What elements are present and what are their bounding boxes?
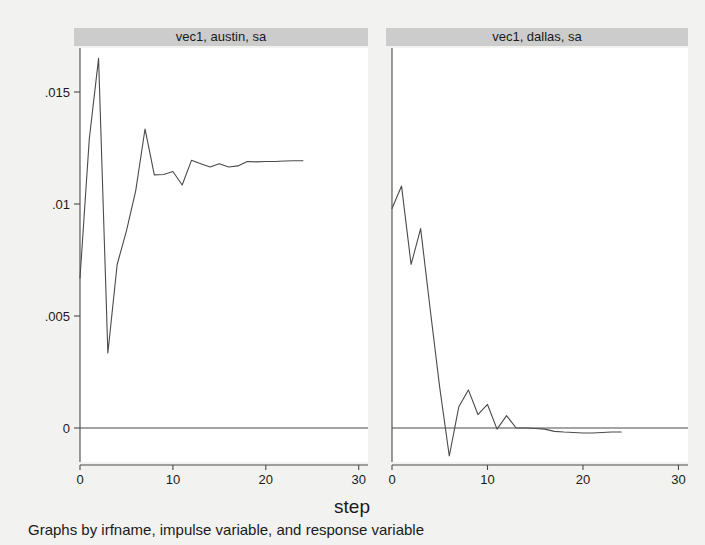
x-tick-label: 30 [671,472,685,487]
x-tick-label: 0 [388,472,395,487]
x-tick-label: 20 [259,472,273,487]
irf-figure: vec1, austin, sa01020300.005.01.015vec1,… [0,0,705,545]
x-axis-title: step [334,496,370,517]
panel-1: vec1, austin, sa01020300.005.01.015 [45,28,368,487]
x-tick-label: 10 [480,472,494,487]
x-tick-label: 20 [576,472,590,487]
y-tick-label: 0 [63,421,70,436]
y-tick-label: .005 [45,309,70,324]
x-tick-label: 0 [76,472,83,487]
x-tick-label: 30 [351,472,365,487]
y-tick-label: .015 [45,85,70,100]
x-tick-label: 10 [166,472,180,487]
panel-plot-background [80,48,368,462]
panel-plot-background [392,48,688,462]
chart-svg: vec1, austin, sa01020300.005.01.015vec1,… [0,0,705,545]
chart-canvas: vec1, austin, sa01020300.005.01.015vec1,… [0,0,705,545]
y-tick-label: .01 [52,197,70,212]
panel-title-label: vec1, dallas, sa [492,29,582,44]
figure-note: Graphs by irfname, impulse variable, and… [28,521,424,538]
panel-title-label: vec1, austin, sa [176,29,267,44]
panel-2: vec1, dallas, sa0102030 [386,28,688,487]
